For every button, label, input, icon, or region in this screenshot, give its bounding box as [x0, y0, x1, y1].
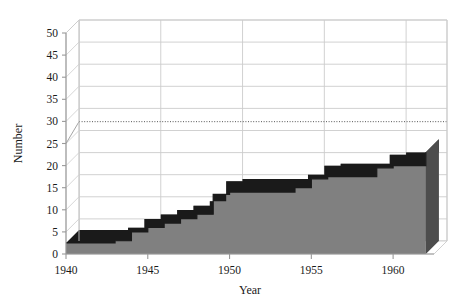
y-tick-label: 0: [52, 248, 58, 260]
x-axis-ticks: 19401945195019551960: [55, 254, 405, 276]
y-tick-label: 5: [52, 226, 58, 238]
x-axis-title: Year: [239, 283, 261, 297]
area-right-face: [426, 139, 439, 254]
y-tick-label: 20: [47, 160, 59, 172]
x-tick-label: 1960: [382, 264, 405, 276]
y-tick-label: 40: [47, 71, 59, 83]
x-tick-label: 1950: [218, 264, 241, 276]
y-tick-label: 25: [47, 138, 59, 150]
y-tick-label: 15: [47, 182, 59, 194]
y-tick-label: 45: [47, 49, 59, 61]
x-tick-label: 1940: [55, 264, 78, 276]
y-tick-label: 30: [47, 115, 59, 127]
y-tick-label: 10: [47, 204, 59, 216]
y-tick-label: 35: [47, 93, 59, 105]
chart-figure: 0510152025303540455019401945195019551960…: [0, 0, 459, 308]
y-tick-label: 50: [47, 27, 59, 39]
y-axis-title: Number: [11, 124, 25, 163]
y-axis-ticks: 05101520253035404550: [47, 27, 67, 260]
x-tick-label: 1955: [300, 264, 323, 276]
area-chart-3d: 0510152025303540455019401945195019551960…: [0, 0, 459, 308]
x-tick-label: 1945: [136, 264, 159, 276]
